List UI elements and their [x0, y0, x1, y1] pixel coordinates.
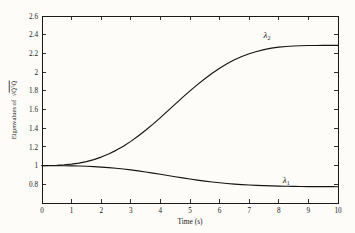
- x-tick-label: 4: [159, 207, 163, 215]
- figure-background: [0, 0, 355, 233]
- x-tick-label: 3: [129, 207, 133, 215]
- y-axis-label-radicand: Q̃ᵀQ̃: [10, 80, 17, 92]
- x-tick-label: 1: [70, 207, 74, 215]
- y-axis-label: Eigenvalues of √Q̃ᵀQ̃: [9, 80, 17, 139]
- x-tick-label: 5: [188, 207, 192, 215]
- chart-figure: 0.811.21.41.61.822.22.42.6 012345678910 …: [0, 0, 355, 233]
- y-tick-label: 0.8: [29, 181, 38, 189]
- x-tick-label: 7: [247, 207, 251, 215]
- x-tick-label: 0: [40, 207, 44, 215]
- y-tick-label: 2.2: [29, 50, 38, 58]
- x-tick-label: 2: [99, 207, 103, 215]
- y-tick-label: 1.4: [29, 125, 38, 133]
- y-tick-label: 1.8: [29, 87, 38, 95]
- x-tick-label: 10: [334, 207, 342, 215]
- x-tick-label: 6: [218, 207, 222, 215]
- y-tick-label: 1.2: [29, 144, 38, 152]
- y-tick-label: 2.6: [29, 13, 38, 21]
- x-axis-label: Time (s): [178, 217, 204, 226]
- x-tick-label: 8: [277, 207, 281, 215]
- y-axis-label-text: Eigenvalues of √Q̃ᵀQ̃: [10, 80, 17, 139]
- x-tick-label: 9: [307, 207, 311, 215]
- y-tick-label: 2: [34, 69, 38, 77]
- y-tick-label: 2.4: [29, 31, 38, 39]
- y-tick-label: 1.6: [29, 106, 38, 114]
- y-axis-label-prefix: Eigenvalues of: [10, 98, 17, 139]
- y-tick-label: 1: [34, 162, 38, 170]
